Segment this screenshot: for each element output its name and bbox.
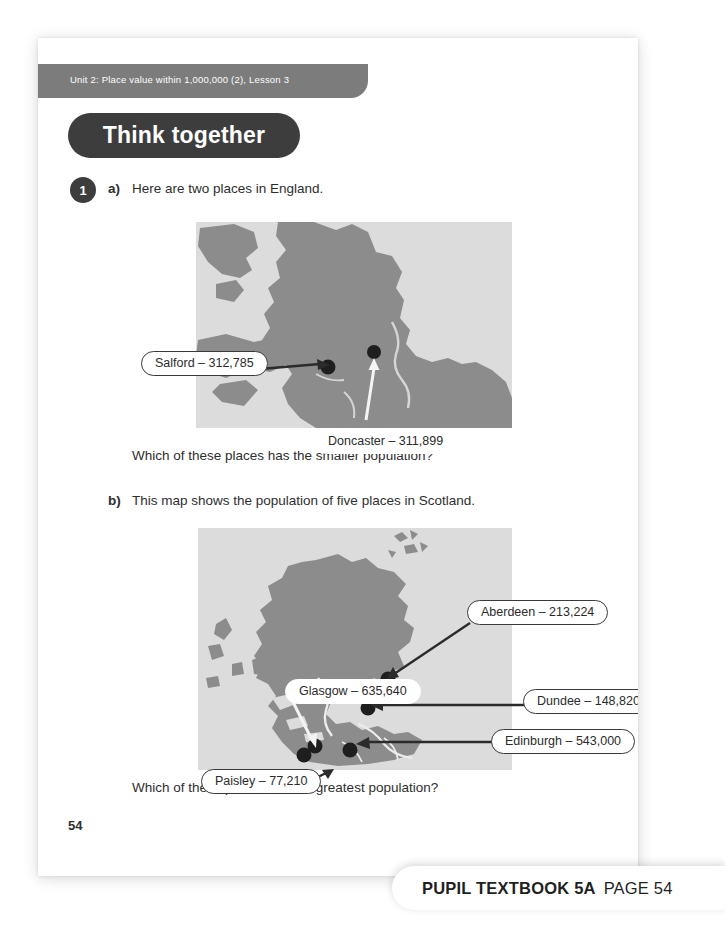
callout-paisley: Paisley – 77,210 bbox=[201, 769, 321, 794]
unit-banner: Unit 2: Place value within 1,000,000 (2)… bbox=[38, 64, 368, 98]
footer-book-title: PUPIL TEXTBOOK 5A bbox=[422, 879, 596, 898]
dot-salford bbox=[321, 360, 336, 375]
textbook-page: Unit 2: Place value within 1,000,000 (2)… bbox=[38, 38, 638, 876]
dot-doncaster bbox=[367, 345, 381, 359]
section-title-pill: Think together bbox=[68, 113, 300, 158]
footer-page-ref: PAGE 54 bbox=[604, 879, 673, 898]
section-title-text: Think together bbox=[103, 122, 266, 149]
callout-glasgow: Glasgow – 635,640 bbox=[285, 679, 421, 704]
scotland-map-graphic bbox=[198, 528, 512, 770]
callout-salford: Salford – 312,785 bbox=[141, 351, 268, 376]
callout-dundee: Dundee – 148,820 bbox=[523, 689, 638, 714]
england-map bbox=[196, 222, 512, 428]
part-b-label: b) bbox=[108, 493, 132, 508]
part-b-prompt-text: This map shows the population of five pl… bbox=[132, 493, 475, 508]
callout-aberdeen: Aberdeen – 213,224 bbox=[467, 600, 608, 625]
page-number: 54 bbox=[68, 818, 82, 833]
question-number-badge: 1 bbox=[70, 177, 96, 203]
unit-banner-text: Unit 2: Place value within 1,000,000 (2)… bbox=[70, 74, 289, 85]
part-a-prompt: a)Here are two places in England. bbox=[108, 181, 323, 196]
part-a-label: a) bbox=[108, 181, 132, 196]
callout-doncaster: Doncaster – 311,899 bbox=[314, 429, 457, 454]
england-map-graphic bbox=[196, 222, 512, 428]
part-a-prompt-text: Here are two places in England. bbox=[132, 181, 323, 196]
part-b-prompt: b)This map shows the population of five … bbox=[108, 493, 475, 508]
callout-edinburgh: Edinburgh – 543,000 bbox=[491, 729, 635, 754]
dot-paisley bbox=[297, 748, 312, 763]
dot-edinburgh bbox=[343, 743, 358, 758]
scotland-map bbox=[198, 528, 512, 770]
footer-tab: PUPIL TEXTBOOK 5A PAGE 54 bbox=[392, 866, 725, 910]
